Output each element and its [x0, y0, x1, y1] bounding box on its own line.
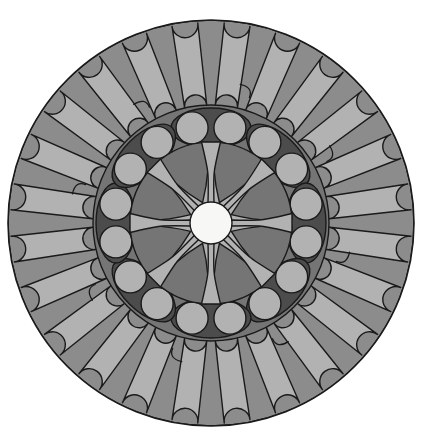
mid-ring-bead — [290, 188, 322, 220]
mid-ring-bead — [176, 112, 208, 144]
mid-ring-bead — [214, 112, 246, 144]
mid-ring-bead — [100, 226, 132, 258]
core-white-disc — [190, 202, 232, 244]
mandala-illustration — [0, 0, 425, 448]
artwork-canvas — [0, 0, 425, 448]
mid-ring-bead — [290, 226, 322, 258]
mid-ring-bead — [176, 302, 208, 334]
mid-ring-bead — [214, 302, 246, 334]
core-disc — [190, 202, 232, 244]
mid-ring-bead — [100, 188, 132, 220]
